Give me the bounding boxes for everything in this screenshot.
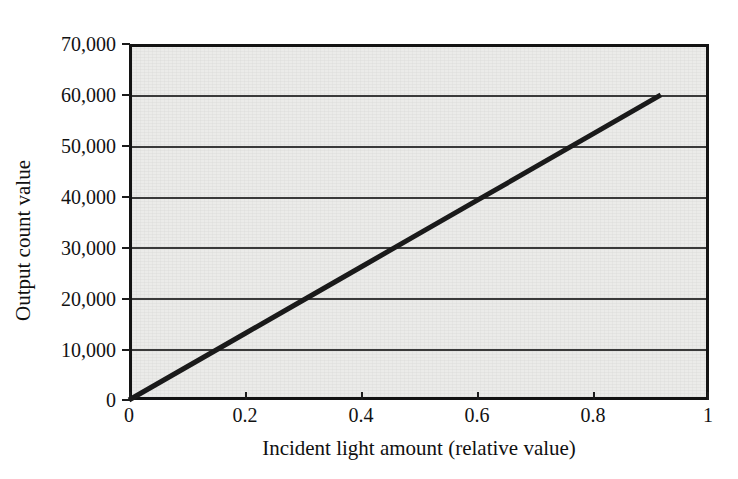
ytick-mark-10000 <box>122 349 130 351</box>
x-axis-title: Incident light amount (relative value) <box>129 436 709 461</box>
ytick-label-10000: 10,000 <box>61 340 116 360</box>
xtick-mark-0.8 <box>593 392 595 400</box>
ytick-label-60000: 60,000 <box>61 85 116 105</box>
xtick-mark-0 <box>129 392 131 400</box>
xtick-mark-0.2 <box>245 392 247 400</box>
xtick-label-0.2: 0.2 <box>215 404 275 426</box>
ytick-mark-70000 <box>122 43 130 45</box>
xtick-label-0.6: 0.6 <box>447 404 507 426</box>
xtick-label-1: 1 <box>688 404 728 426</box>
ytick-label-50000: 50,000 <box>61 136 116 156</box>
line-chart-figure: 70,000 60,000 50,000 40,000 30,000 20,00… <box>0 0 738 479</box>
ytick-label-30000: 30,000 <box>61 238 116 258</box>
xtick-label-0.8: 0.8 <box>563 404 623 426</box>
ytick-mark-20000 <box>122 298 130 300</box>
xtick-label-0: 0 <box>109 404 149 426</box>
ytick-label-40000: 40,000 <box>61 187 116 207</box>
ytick-mark-40000 <box>122 196 130 198</box>
y-axis-title-text: Output count value <box>11 160 36 321</box>
xtick-mark-0.4 <box>361 392 363 400</box>
y-axis-title: Output count value <box>8 100 38 380</box>
xtick-label-0.4: 0.4 <box>331 404 391 426</box>
xtick-mark-1 <box>707 392 709 400</box>
ytick-mark-50000 <box>122 145 130 147</box>
ytick-mark-60000 <box>122 94 130 96</box>
xtick-mark-0.6 <box>477 392 479 400</box>
data-series-photoelectric-response <box>129 44 709 400</box>
ytick-mark-30000 <box>122 247 130 249</box>
ytick-label-70000: 70,000 <box>61 34 116 54</box>
ytick-label-20000: 20,000 <box>61 289 116 309</box>
